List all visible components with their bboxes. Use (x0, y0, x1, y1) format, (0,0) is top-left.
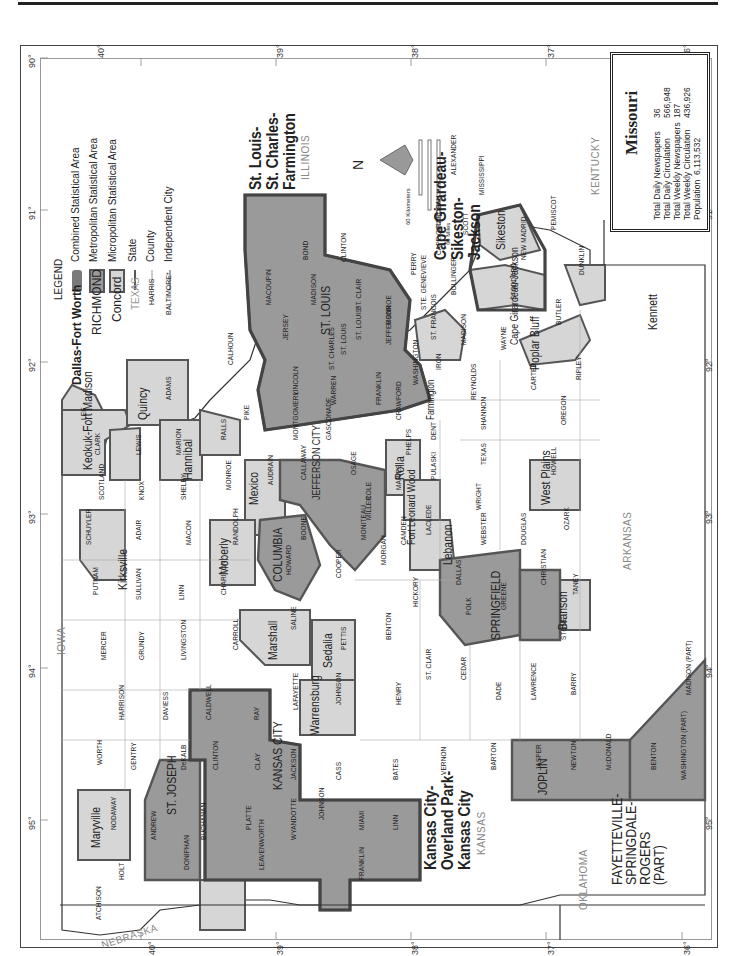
csa-label-kansas-city: Kansas City- Overland Park- Kansas City (422, 771, 473, 870)
county-label: DALLAS (455, 559, 462, 585)
lon-label-91-left: 91° (27, 206, 37, 220)
county-label: LINN (392, 815, 399, 830)
county-label: CALHOUN (227, 333, 234, 365)
county-label: CLINTON (340, 233, 347, 262)
county-label: MERCER (100, 631, 107, 660)
county-label: PLATTE (245, 805, 252, 830)
county-label: LEAVENWORTH (258, 819, 265, 870)
st-louis-metro (245, 195, 430, 430)
county-label: RIPLEY (575, 356, 582, 380)
county-label: PUTNAM (92, 567, 99, 595)
legend-label-metro: Metropolitan Statistical Area (88, 138, 99, 262)
county-label: LINN (178, 585, 185, 600)
county-label: MISSISSIPPI (478, 155, 485, 195)
county-label: ST. LOUIS* (355, 306, 362, 340)
micro-label-quincy: Quincy (135, 388, 150, 420)
county-label: LAWRENCE (530, 663, 537, 700)
county-label: KNOX (138, 481, 145, 500)
county-label: PIKE (243, 405, 250, 420)
county-label: CEDAR (460, 657, 467, 680)
county-label: JOHNSON (318, 788, 325, 820)
county-label: WASHINGTON (412, 340, 419, 385)
county-label: MARIES (395, 464, 402, 490)
micro-label-mexico: Mexico (246, 472, 261, 505)
lat-label-40-bottom: 40° (147, 941, 157, 955)
county-label: HICKORY (412, 577, 419, 607)
county-label: JOHNSON (335, 673, 342, 705)
lon-label-95-left: 95° (27, 816, 37, 830)
county-label: ST. CHARLES (328, 327, 335, 370)
legend-sample-state: TEXAS (130, 277, 141, 310)
micro-label-warrensburg: Warrensburg (307, 675, 322, 735)
county-label: WEBSTER (480, 512, 487, 545)
county-label: CARROLL (232, 619, 239, 650)
county-label: PERRY (410, 252, 417, 275)
micro-label-marshall: Marshall (265, 621, 280, 660)
county-label: BOONE (300, 516, 307, 540)
state-label-iowa: IOWA (56, 627, 67, 655)
county-label: TEXAS (480, 443, 487, 465)
county-label: BATES (392, 759, 399, 780)
state-label-kansas: KANSAS (476, 811, 487, 855)
county-label: CLINTON (212, 741, 219, 770)
county-label: OREGON (560, 396, 567, 426)
legend-label-independent-city: Independent City (163, 186, 174, 262)
micro-label-keokuk: Keokuk-Fort Madison (80, 371, 95, 470)
county-label: NEW MADRID (520, 216, 527, 260)
county-label: OZARK (563, 507, 570, 530)
county-label: MACON (185, 520, 192, 545)
county-label: BOND (302, 241, 309, 260)
county-label: DADE (495, 682, 502, 700)
county-label: MONTGOMERY (292, 391, 299, 440)
county-label: AUDRAIN (267, 455, 274, 485)
county-label: MADISON (460, 314, 467, 345)
county-label: MADISON (310, 274, 317, 305)
lon-label-93-left: 93° (27, 510, 37, 524)
legend-sample-metro: RICHMOND (90, 269, 104, 335)
stat-population-value: 6,113,532 (692, 138, 702, 175)
county-label: RAY (253, 707, 260, 720)
lat-label-37-bottom: 37° (546, 941, 556, 955)
maryville-area (78, 790, 130, 860)
lon-label-94-right: 94° (704, 664, 714, 678)
lat-label-39-bottom: 39° (275, 941, 285, 955)
county-label: PULASKI (430, 452, 437, 480)
micro-label-farmington: Farmington (425, 380, 436, 420)
county-label: WASHINGTON (PART) (680, 711, 687, 780)
state-label-illinois: ILLINOIS (300, 135, 311, 180)
county-label: DONIPHAN (183, 835, 190, 870)
county-label: OSAGE (350, 451, 357, 475)
metro-label-columbia: COLUMBIA (270, 528, 285, 582)
county-label: IRON (435, 353, 442, 370)
county-label: CLARK (94, 433, 101, 455)
county-label: WYANDOTTE (290, 798, 297, 840)
county-label: BARRY (570, 672, 577, 695)
county-label: DAVIESS (162, 692, 169, 720)
county-label: CALDWELL (205, 684, 212, 720)
north-arrow (380, 145, 413, 175)
micro-label-lebanon: Lebanon (440, 525, 455, 566)
county-label: VERNON (440, 747, 447, 775)
county-label: MARION (175, 428, 182, 455)
micro-label-maryville: Maryville (88, 807, 103, 848)
legend-sample-county: HARRIS (148, 279, 155, 305)
state-title: Missouri (622, 91, 642, 155)
county-label: CAMDEN (400, 516, 407, 545)
county-label: ANDREW (150, 811, 157, 841)
lon-label-92-right: 92° (704, 358, 714, 372)
county-label: ST. FRANCOIS (430, 294, 437, 340)
county-label: HOLT (118, 863, 125, 880)
county-label: SCOTT (462, 212, 469, 235)
county-label: BENTON (385, 612, 392, 640)
micro-label-sedalia: Sedalia (320, 633, 335, 668)
legend-label-csa: Combined Statistical Area (70, 147, 81, 262)
county-label: NODAWAY (110, 797, 117, 830)
county-label: CHRISTIAN (540, 549, 547, 585)
county-label: MACOUPIN (265, 269, 272, 305)
county-label: CARTER (530, 363, 537, 390)
county-label: CASS (335, 762, 342, 780)
state-label-kentucky: KENTUCKY (590, 137, 601, 195)
county-label: JACKSON (290, 749, 297, 780)
county-label: CHARITON (220, 560, 227, 595)
state-label-oklahoma: OKLAHOMA (578, 849, 589, 910)
